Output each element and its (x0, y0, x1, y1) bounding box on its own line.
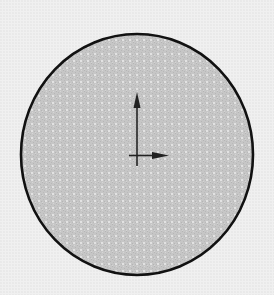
sketch-canvas[interactable] (0, 0, 274, 295)
sketch-drawing (0, 0, 274, 295)
